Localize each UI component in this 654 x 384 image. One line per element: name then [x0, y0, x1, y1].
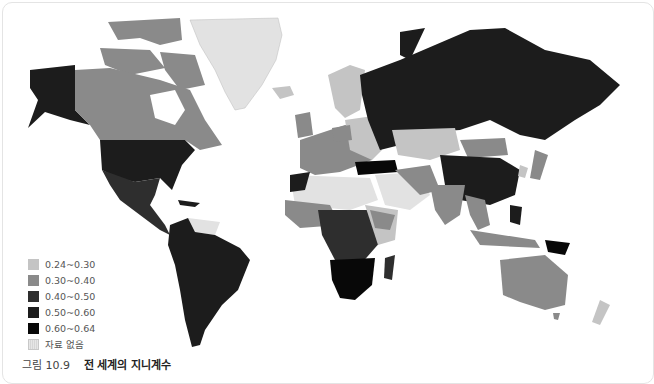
region-caribbean	[178, 200, 200, 207]
region-new-zealand	[592, 300, 610, 325]
region-mongolia	[460, 138, 508, 158]
legend-item-0-30-0-40: 0.30~0.40	[28, 272, 95, 288]
legend-swatch	[28, 291, 39, 302]
region-southern-africa	[330, 258, 375, 300]
legend-label: 자료 없음	[45, 337, 84, 351]
region-tasmania	[553, 313, 560, 320]
region-indonesia	[470, 230, 540, 248]
region-japan	[530, 150, 548, 180]
region-madagascar	[384, 255, 395, 280]
region-greenland	[190, 18, 282, 110]
legend-item-no-data: 자료 없음	[28, 336, 95, 352]
legend-swatch	[28, 339, 39, 350]
figure-label: 그림 10.9	[22, 359, 70, 372]
region-uk	[295, 112, 313, 138]
legend-label: 0.24~0.30	[45, 259, 95, 270]
legend-label: 0.60~0.64	[45, 323, 95, 334]
legend-label: 0.50~0.60	[45, 307, 95, 318]
legend-swatch	[28, 259, 39, 270]
region-south-america	[168, 218, 250, 347]
legend-swatch	[28, 323, 39, 334]
region-india	[430, 185, 465, 225]
legend-label: 0.30~0.40	[45, 275, 95, 286]
map-legend: 0.24~0.30 0.30~0.40 0.40~0.50 0.50~0.60 …	[28, 256, 95, 352]
region-kazakhstan	[392, 128, 460, 160]
legend-item-0-50-0-60: 0.50~0.60	[28, 304, 95, 320]
region-poland	[332, 125, 352, 142]
region-korea	[518, 165, 528, 178]
legend-item-0-24-0-30: 0.24~0.30	[28, 256, 95, 272]
legend-item-0-40-0-50: 0.40~0.50	[28, 288, 95, 304]
region-iceland	[272, 86, 294, 99]
region-australia	[500, 255, 568, 310]
legend-label: 0.40~0.50	[45, 291, 95, 302]
legend-item-0-60-0-64: 0.60~0.64	[28, 320, 95, 336]
region-scandinavia	[328, 65, 365, 118]
region-turkey	[355, 160, 398, 175]
legend-swatch	[28, 307, 39, 318]
region-philippines	[510, 205, 522, 225]
figure-title: 전 세계의 지니계수	[84, 359, 172, 372]
legend-swatch	[28, 275, 39, 286]
region-papua	[545, 240, 570, 255]
figure-caption: 그림 10.9 전 세계의 지니계수	[22, 356, 171, 372]
